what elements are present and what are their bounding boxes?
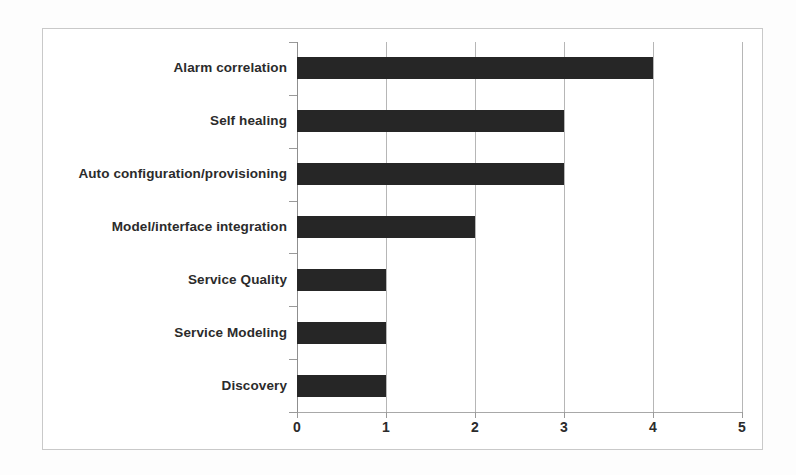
- x-axis-tick-3: [564, 412, 565, 418]
- bar: [297, 375, 386, 397]
- category-label: Auto configuration/provisioning: [7, 166, 297, 181]
- x-axis-tick-5: [742, 412, 743, 418]
- bar: [297, 110, 564, 132]
- category-axis-labels: Alarm correlationSelf healingAuto config…: [0, 42, 297, 412]
- y-axis-tick: [289, 306, 297, 307]
- y-axis-tick: [289, 359, 297, 360]
- bar: [297, 269, 386, 291]
- y-axis-tick: [289, 253, 297, 254]
- x-axis-rule: [297, 412, 743, 413]
- x-axis-label: 0: [277, 419, 317, 435]
- x-axis-label: 4: [633, 419, 673, 435]
- category-label: Self healing: [7, 113, 297, 128]
- x-axis-tick-1: [386, 412, 387, 418]
- value-axis-labels: 012345: [0, 419, 796, 443]
- x-axis-label: 2: [455, 419, 495, 435]
- x-axis-tick-4: [653, 412, 654, 418]
- category-label: Service Quality: [7, 272, 297, 287]
- y-axis-tick: [289, 42, 297, 43]
- plot-area: [297, 42, 742, 412]
- category-label: Model/interface integration: [7, 219, 297, 234]
- x-axis-tick-2: [475, 412, 476, 418]
- x-axis-tick-0: [297, 412, 298, 418]
- x-axis-label: 5: [722, 419, 762, 435]
- x-axis-label: 3: [544, 419, 584, 435]
- category-label: Alarm correlation: [7, 60, 297, 75]
- y-axis-tick: [289, 412, 297, 413]
- category-label: Service Modeling: [7, 325, 297, 340]
- bar: [297, 216, 475, 238]
- y-axis-tick: [289, 148, 297, 149]
- bar-chart-figure: Alarm correlationSelf healingAuto config…: [0, 0, 796, 475]
- y-axis-tick: [289, 95, 297, 96]
- category-label: Discovery: [7, 378, 297, 393]
- bar: [297, 163, 564, 185]
- bar: [297, 322, 386, 344]
- y-axis-tick: [289, 201, 297, 202]
- gridline-5: [742, 42, 743, 412]
- bar: [297, 57, 653, 79]
- bars-layer: [297, 42, 742, 412]
- x-axis-label: 1: [366, 419, 406, 435]
